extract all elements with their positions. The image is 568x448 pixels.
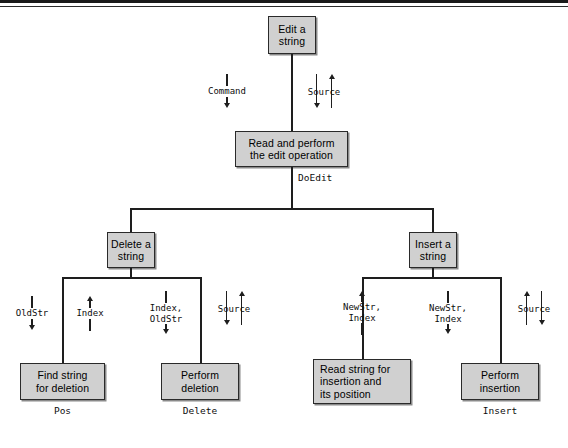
couple-label: NewStr, Index	[429, 303, 467, 324]
structure-chart-figure: Edit a string Command Sou	[0, 0, 568, 448]
module-perform-insertion[interactable]: Perform insertion	[461, 363, 539, 400]
module-perform-deletion[interactable]: Perform deletion	[161, 363, 239, 400]
module-label: Read string for insertion and its positi…	[314, 363, 393, 401]
couple-label: Index	[76, 308, 103, 319]
module-caption-pos: Pos	[20, 405, 105, 416]
couple-label: Source	[208, 304, 260, 315]
bus-delete-children	[62, 277, 201, 279]
module-label: Perform insertion	[477, 369, 524, 394]
arrowhead-down-icon	[314, 103, 320, 108]
module-label: Perform deletion	[178, 369, 222, 394]
module-edit-a-string[interactable]: Edit a string	[268, 16, 316, 54]
module-label: Edit a string	[275, 23, 308, 48]
couple-label: NewStr, Index	[343, 302, 381, 323]
edge-root-to-doedit	[291, 54, 293, 131]
module-caption-delete: Delete	[161, 405, 239, 416]
couple-source-delete: Source	[208, 291, 260, 325]
arrowhead-down-icon	[539, 320, 545, 325]
module-label: Insert a string	[412, 238, 454, 263]
bus-level-2	[130, 208, 433, 210]
module-label: Find string for deletion	[33, 369, 92, 394]
bus-drop-delete	[130, 208, 132, 232]
bus-drop-insert	[432, 208, 434, 232]
couple-label: Source	[508, 304, 560, 315]
arrowhead-down-icon	[445, 329, 451, 334]
bus-insert-children	[362, 277, 501, 279]
couple-oldstr: OldStr	[8, 296, 56, 330]
couple-newstr-index-up: NewStr, Index	[336, 291, 388, 335]
couple-source-insert: Source	[508, 291, 560, 325]
bus-drop-perform-deletion	[200, 277, 202, 363]
module-label: Delete a string	[108, 238, 154, 263]
arrowhead-down-icon	[224, 320, 230, 325]
page-rule-top	[0, 0, 568, 3]
module-caption-insert: Insert	[461, 405, 539, 416]
module-read-string-for-insertion[interactable]: Read string for insertion and its positi…	[313, 359, 411, 404]
bus-drop-find-string	[62, 277, 64, 363]
module-delete-a-string[interactable]: Delete a string	[107, 232, 155, 268]
couple-newstr-index-down: NewStr, Index	[420, 291, 476, 334]
module-find-string-for-deletion[interactable]: Find string for deletion	[20, 363, 105, 400]
bus-drop-perform-insertion	[500, 277, 502, 363]
couple-label: Command	[208, 86, 246, 97]
module-label: Read and perform the edit operation	[245, 137, 337, 162]
edge-insert-to-bus	[432, 268, 434, 277]
couple-label: Source	[298, 87, 350, 98]
module-read-and-perform-edit[interactable]: Read and perform the edit operation	[235, 131, 348, 167]
couple-command: Command	[197, 74, 257, 108]
couple-label: Index, OldStr	[150, 303, 183, 324]
module-insert-a-string[interactable]: Insert a string	[409, 232, 457, 268]
couple-source-root: Source	[298, 74, 350, 108]
page-rule-hairline	[0, 6, 568, 7]
arrowhead-down-icon	[163, 329, 169, 334]
edge-label-doedit: DoEdit	[298, 172, 332, 183]
arrowhead-down-icon	[29, 325, 35, 330]
couple-label: OldStr	[16, 308, 49, 319]
arrowhead-down-icon	[224, 103, 230, 108]
edge-delete-to-bus	[130, 268, 132, 277]
couple-index: Index	[70, 296, 110, 331]
edge-doedit-to-bus	[291, 167, 293, 208]
couple-index-oldstr: Index, OldStr	[138, 291, 194, 334]
